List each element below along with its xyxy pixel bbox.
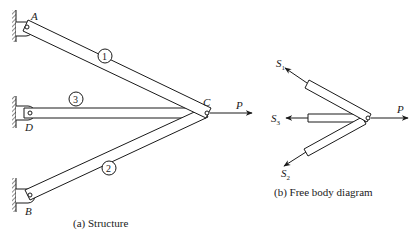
pin-c [205,111,209,115]
free-body-diagram [284,68,408,166]
force-arrow-s2 [284,152,306,166]
member-2 [25,108,208,200]
fbd-member-2 [304,117,366,156]
label-b: B [25,205,32,217]
label-s1: S1 [276,57,286,72]
member-3 [24,108,206,118]
caption-free-body: (b) Free body diagram [274,186,373,199]
pin-a [25,25,29,29]
caption-structure: (a) Structure [73,217,128,230]
label-p-structure: P [235,99,243,111]
structure-diagram [12,10,252,212]
label-s2: S2 [281,167,291,182]
member-2-number: 2 [106,163,111,174]
pin-d [28,111,32,115]
force-arrow-s1 [285,68,307,83]
member-1 [23,20,211,118]
label-a: A [30,10,38,22]
label-c: C [203,96,211,108]
label-s3: S3 [271,112,281,127]
fbd-pin [366,116,370,120]
label-d: D [24,121,33,133]
label-p-fbd: P [396,103,404,115]
member-3-number: 3 [73,94,78,105]
diagram-canvas: A D B C P 1 3 2 (a) Structure S1 S3 S2 P… [0,0,415,237]
member-1-number: 1 [102,51,107,62]
pin-b [28,193,32,197]
